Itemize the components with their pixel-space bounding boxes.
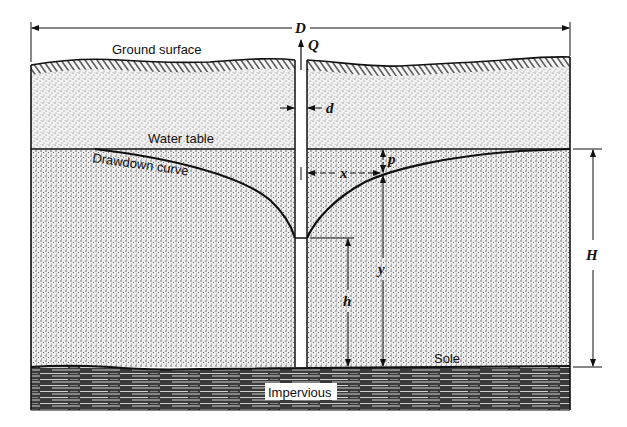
H-total-height-label: H bbox=[585, 247, 599, 263]
saturated-soil-left bbox=[31, 149, 295, 367]
sole-label: Sole bbox=[434, 351, 460, 366]
well-drawdown-diagram: Impervious Water table Drawdown curve Q … bbox=[0, 0, 627, 427]
saturated-soil-right bbox=[307, 149, 570, 367]
discharge-label: Q bbox=[308, 37, 319, 53]
diameter-total-label: D bbox=[294, 20, 306, 36]
h-height-label: h bbox=[343, 293, 351, 309]
well-diameter-label: d bbox=[326, 100, 334, 116]
y-height-label: y bbox=[376, 261, 385, 277]
water-table-label: Water table bbox=[148, 131, 214, 146]
well-pipe bbox=[295, 20, 307, 367]
ground-surface-label: Ground surface bbox=[112, 42, 202, 57]
x-distance-label: x bbox=[339, 165, 348, 181]
p-drawdown-label: p bbox=[386, 151, 396, 167]
impervious-label: Impervious bbox=[268, 385, 332, 400]
